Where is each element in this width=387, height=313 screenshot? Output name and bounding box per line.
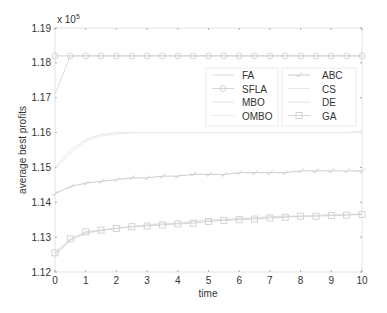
x-tick-label: 0	[52, 275, 58, 286]
legend-label: CS	[322, 84, 336, 95]
axes	[55, 28, 362, 272]
legend-box-right	[282, 68, 356, 126]
legend-label: ABC	[322, 70, 343, 81]
x-tick-label: 8	[298, 275, 304, 286]
x-tick-label: 10	[356, 275, 368, 286]
legend-label: FA	[242, 70, 255, 81]
x-tick-label: 6	[236, 275, 242, 286]
x-tick-label: 3	[144, 275, 150, 286]
series-cs	[55, 213, 362, 256]
x-tick-label: 7	[267, 275, 273, 286]
series-line-cs	[55, 213, 362, 256]
series-line-de	[55, 214, 362, 254]
legend-label: OMBO	[242, 111, 273, 122]
plot-frame	[55, 28, 362, 272]
line-chart: 012345678910 1.121.131.141.151.161.171.1…	[0, 0, 387, 313]
y-tick-label: 1.14	[32, 197, 52, 208]
y-exponent-power: 5	[76, 13, 80, 20]
series-de	[55, 214, 362, 254]
y-tick-label: 1.19	[32, 23, 52, 34]
legend: FASFLAMBOOMBOABCCSDEGA	[206, 68, 356, 126]
x-tick-label: 1	[83, 275, 89, 286]
x-axis-label: time	[199, 288, 218, 299]
y-tick-label: 1.13	[32, 232, 52, 243]
series-abc	[52, 168, 365, 195]
x-ticks: 012345678910	[52, 28, 368, 286]
y-tick-label: 1.18	[32, 57, 52, 68]
legend-label: SFLA	[242, 84, 267, 95]
y-tick-label: 1.16	[32, 127, 52, 138]
series-ga	[52, 211, 365, 255]
legend-label: GA	[322, 111, 337, 122]
y-tick-label: 1.17	[32, 92, 52, 103]
y-ticks: 1.121.131.141.151.161.171.181.19	[32, 23, 362, 278]
series-line-ombo	[55, 133, 362, 170]
x-tick-label: 4	[175, 275, 181, 286]
legend-label: MBO	[242, 97, 265, 108]
y-axis-label: average best profits	[17, 106, 28, 194]
y-tick-label: 1.15	[32, 162, 52, 173]
series-sfla	[52, 53, 365, 59]
y-tick-label: 1.12	[32, 267, 52, 278]
x-tick-label: 2	[114, 275, 120, 286]
y-exponent-label: x 105	[57, 13, 80, 25]
x-tick-label: 5	[206, 275, 212, 286]
series-ombo	[55, 133, 362, 170]
legend-label: DE	[322, 97, 336, 108]
x-tick-label: 9	[329, 275, 335, 286]
